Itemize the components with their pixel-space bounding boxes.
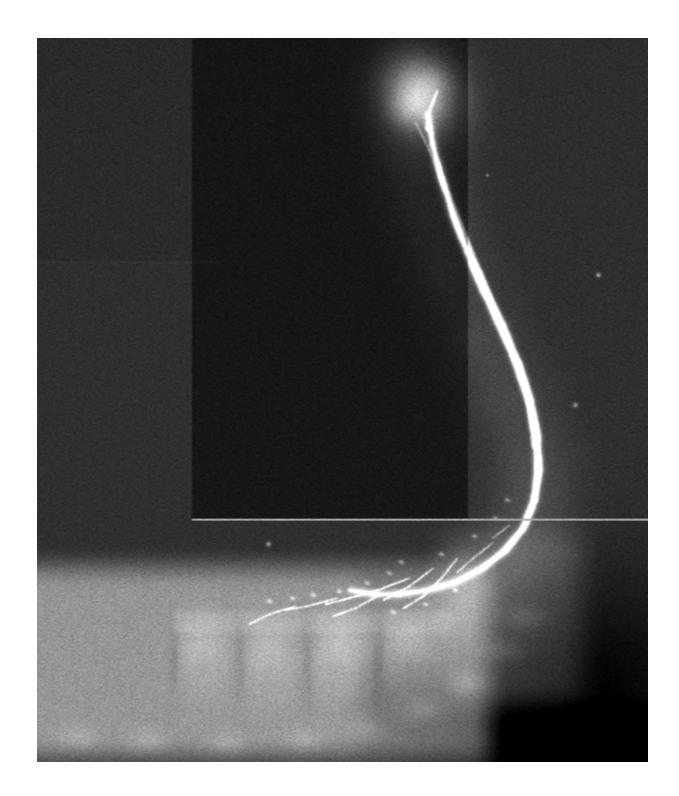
page-root — [0, 0, 679, 796]
radiograph-film — [37, 38, 648, 762]
radiograph-canvas — [37, 38, 648, 762]
